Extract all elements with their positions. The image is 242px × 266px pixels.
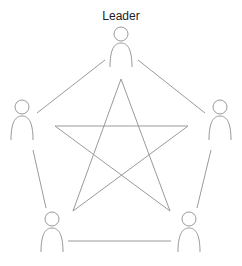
person-icon-left bbox=[11, 100, 33, 140]
person-icon-bottom-right bbox=[178, 212, 200, 252]
person-icon-right bbox=[209, 100, 231, 140]
edge-leader-right bbox=[138, 60, 205, 113]
star-shape bbox=[55, 79, 188, 211]
edge-left-bottomleft bbox=[33, 150, 46, 208]
edge-right-bottomright bbox=[197, 150, 211, 208]
person-icon-bottom-left bbox=[41, 212, 63, 252]
person-icon-leader bbox=[110, 27, 132, 67]
edge-leader-left bbox=[37, 60, 105, 113]
team-network-diagram bbox=[0, 0, 242, 266]
